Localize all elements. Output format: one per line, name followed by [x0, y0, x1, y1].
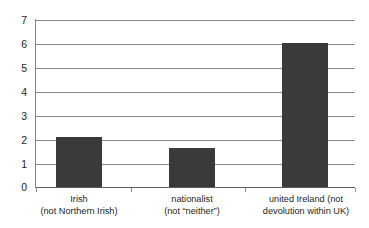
category-label-united-ireland: united Ireland (not devolution within UK… — [243, 193, 369, 217]
y-tick-label-7: 7 — [7, 15, 27, 25]
category-label-united-ireland-line2: devolution within UK) — [243, 205, 369, 217]
x-tick-1 — [131, 188, 132, 192]
x-axis-baseline — [36, 187, 355, 188]
x-tick-0 — [36, 188, 37, 192]
x-tick-3 — [355, 188, 356, 192]
y-tick-label-0: 0 — [7, 182, 27, 192]
bar-united-ireland — [282, 43, 328, 187]
bar-irish — [56, 137, 102, 187]
bar-chart: .gridline { left: 36px; } 7 6 5 4 3 2 1 … — [0, 0, 369, 228]
y-tick-label-6: 6 — [7, 39, 27, 49]
y-tick-label-1: 1 — [7, 159, 27, 169]
x-tick-2 — [245, 188, 246, 192]
category-label-nationalist: nationalist (not “neither”) — [137, 193, 247, 217]
bar-nationalist — [169, 148, 215, 187]
category-label-irish-line2: (not Northern Irish) — [24, 205, 134, 217]
y-tick-label-4: 4 — [7, 87, 27, 97]
category-label-irish: Irish (not Northern Irish) — [24, 193, 134, 217]
category-label-nationalist-line1: nationalist — [137, 193, 247, 205]
category-label-irish-line1: Irish — [24, 193, 134, 205]
gridline-7 — [36, 20, 355, 21]
y-tick-label-5: 5 — [7, 63, 27, 73]
y-tick-label-2: 2 — [7, 135, 27, 145]
category-label-nationalist-line2: (not “neither”) — [137, 205, 247, 217]
category-label-united-ireland-line1: united Ireland (not — [243, 193, 369, 205]
y-tick-label-3: 3 — [7, 111, 27, 121]
